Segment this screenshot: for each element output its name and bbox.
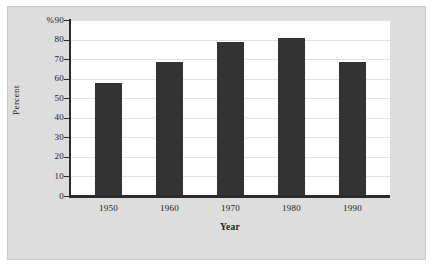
bars-layer xyxy=(70,20,390,196)
y-tick-mark xyxy=(64,137,70,138)
y-tick-label-80: 80 xyxy=(4,35,64,44)
y-tick-mark xyxy=(64,40,70,41)
y-tick-label-0: 0 xyxy=(4,192,64,201)
y-tick-label-90: %90 xyxy=(4,16,64,25)
bar-1960[interactable] xyxy=(156,62,183,196)
y-axis-tick-labels: %90 80 70 60 50 40 30 20 10 0 xyxy=(0,0,64,267)
x-tick-label-1980: 1980 xyxy=(262,203,322,213)
y-tick-label-10: 10 xyxy=(4,172,64,181)
x-axis-line xyxy=(69,195,390,198)
x-tick-label-1970: 1970 xyxy=(201,203,261,213)
y-tick-mark xyxy=(64,118,70,119)
y-tick-mark xyxy=(64,20,70,21)
y-tick-mark xyxy=(64,59,70,60)
bar-1990[interactable] xyxy=(339,62,366,196)
y-tick-label-20: 20 xyxy=(4,152,64,161)
x-tick-label-1990: 1990 xyxy=(323,203,383,213)
y-tick-mark xyxy=(64,176,70,177)
bar-1970[interactable] xyxy=(217,42,244,197)
bar-1980[interactable] xyxy=(278,38,305,196)
y-axis-title: Percent xyxy=(11,60,21,140)
x-tick-label-1950: 1950 xyxy=(79,203,139,213)
y-tick-mark xyxy=(64,157,70,158)
y-tick-mark xyxy=(64,79,70,80)
figure-container: %90 80 70 60 50 40 30 20 10 0 1950 1960 … xyxy=(0,0,433,267)
y-tick-mark xyxy=(64,98,70,99)
y-tick-mark xyxy=(64,196,70,197)
bar-1950[interactable] xyxy=(95,83,122,196)
x-tick-label-1960: 1960 xyxy=(140,203,200,213)
x-axis-title: Year xyxy=(70,222,390,232)
y-axis-line xyxy=(69,19,71,197)
